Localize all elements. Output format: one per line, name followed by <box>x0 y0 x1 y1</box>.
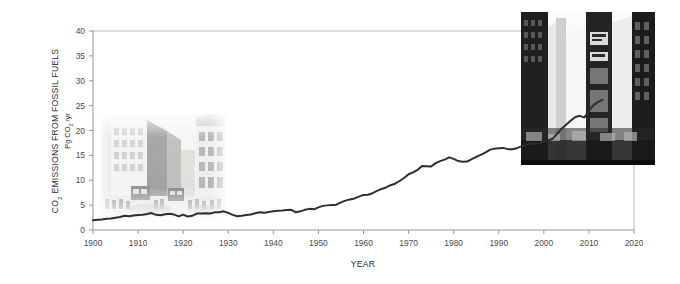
y-tick-label: 40 <box>76 26 86 36</box>
x-tick-label: 1910 <box>129 238 148 248</box>
x-tick-label: 1960 <box>354 238 373 248</box>
x-tick-label: 1980 <box>444 238 463 248</box>
chart-canvas: 0510152025303540 19001910192019301940195… <box>0 0 680 284</box>
y-axis-title-rest: EMISSIONS FROM FOSSIL FUELS <box>50 49 60 197</box>
x-tick-label: 1920 <box>174 238 193 248</box>
y-tick-label: 5 <box>80 200 85 210</box>
x-tick-label: 1990 <box>489 238 508 248</box>
y-tick-label: 0 <box>80 225 85 235</box>
x-tick-label: 1970 <box>399 238 418 248</box>
x-axis-title: YEAR <box>351 259 375 269</box>
y-tick-label: 10 <box>76 175 86 185</box>
x-tick-label: 1900 <box>84 238 103 248</box>
x-tick-label: 1950 <box>309 238 328 248</box>
y-tick-label: 35 <box>76 51 86 61</box>
y-tick-label: 20 <box>76 126 86 136</box>
x-tick-label: 2000 <box>535 238 554 248</box>
y-axis-title-prefix: CO <box>50 200 60 213</box>
x-tick-label: 2010 <box>580 238 599 248</box>
y-axis-units-prefix: Pg CO <box>63 126 72 148</box>
vintage-street-photo <box>100 112 226 217</box>
x-tick-label: 1930 <box>219 238 238 248</box>
y-tick-label: 30 <box>76 76 86 86</box>
y-tick-label: 25 <box>76 101 86 111</box>
co2-emissions-chart-figure: 0510152025303540 19001910192019301940195… <box>0 0 680 284</box>
y-axis-units-rest: /yr <box>63 113 72 124</box>
x-tick-label: 1940 <box>264 238 283 248</box>
x-tick-label: 2020 <box>625 238 644 248</box>
y-tick-label: 15 <box>76 150 86 160</box>
